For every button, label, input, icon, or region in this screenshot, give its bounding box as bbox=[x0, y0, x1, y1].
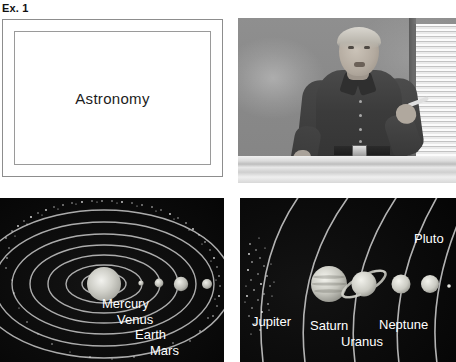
outer-solar-system-panel[interactable]: Jupiter Saturn Uranus Neptune Pluto bbox=[240, 198, 456, 362]
presenter-video-panel[interactable] bbox=[238, 18, 456, 183]
label-neptune: Neptune bbox=[379, 317, 428, 332]
inner-solar-system-diagram: Mercury Venus Earth Mars bbox=[0, 198, 224, 362]
label-saturn: Saturn bbox=[310, 318, 348, 333]
inner-solar-system-panel[interactable]: Mercury Venus Earth Mars bbox=[0, 198, 224, 362]
planet-mars bbox=[202, 279, 212, 289]
lecture-capture-figure: Ex. 1 Astronomy bbox=[0, 0, 456, 362]
shirt-button bbox=[359, 128, 362, 131]
label-jupiter: Jupiter bbox=[252, 314, 292, 329]
label-mars: Mars bbox=[150, 343, 179, 358]
shirt-button bbox=[359, 140, 362, 143]
planet-neptune bbox=[421, 275, 439, 293]
slide-inner-frame: Astronomy bbox=[14, 31, 211, 165]
slide-panel[interactable]: Astronomy bbox=[2, 19, 223, 177]
label-pluto: Pluto bbox=[414, 231, 444, 246]
planet-pluto bbox=[447, 284, 451, 288]
outer-solar-system-diagram: Jupiter Saturn Uranus Neptune Pluto bbox=[240, 198, 456, 362]
label-uranus: Uranus bbox=[341, 334, 383, 349]
shirt-button bbox=[359, 100, 362, 103]
slide-title: Astronomy bbox=[75, 90, 149, 107]
planet-venus bbox=[155, 279, 164, 288]
label-mercury: Mercury bbox=[102, 296, 149, 311]
desk-ledge bbox=[238, 156, 456, 183]
figure-caption: Ex. 1 bbox=[2, 1, 29, 15]
presenter-eye-left bbox=[348, 46, 354, 49]
planet-uranus bbox=[392, 275, 411, 294]
planet-mercury bbox=[138, 280, 143, 285]
label-venus: Venus bbox=[117, 312, 154, 327]
presenter-mouth bbox=[354, 62, 365, 67]
shirt-button bbox=[359, 114, 362, 117]
presenter-eye-right bbox=[364, 46, 370, 49]
label-earth: Earth bbox=[135, 327, 166, 342]
planet-earth bbox=[174, 277, 188, 291]
